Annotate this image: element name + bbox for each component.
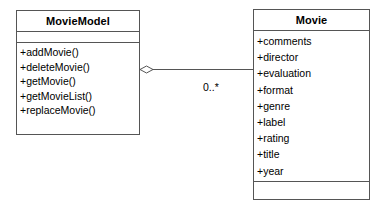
operation-item: +getMovieList() [20,89,139,104]
attributes-compartment-movie: +comments +director +evaluation +format … [254,31,369,182]
attribute-item: +evaluation [257,65,369,81]
attribute-item: +comments [257,33,369,49]
attributes-compartment-movie-model [17,32,139,43]
operation-item: +addMovie() [20,45,139,60]
class-box-movie[interactable]: Movie +comments +director +evaluation +f… [253,9,370,200]
attribute-item: +rating [257,130,369,146]
attribute-item: +label [257,114,369,130]
operation-item: +getMovie() [20,74,139,89]
attribute-item: +genre [257,98,369,114]
attribute-item: +year [257,163,369,179]
association-line [152,69,253,70]
attribute-item: +director [257,49,369,65]
attribute-item: +format [257,82,369,98]
operations-compartment-movie-model: +addMovie() +deleteMovie() +getMovie() +… [17,43,139,120]
class-box-movie-model[interactable]: MovieModel +addMovie() +deleteMovie() +g… [16,10,140,135]
operation-item: +replaceMovie() [20,103,139,118]
hollow-diamond-icon [139,65,154,74]
class-name-movie: Movie [254,10,369,31]
multiplicity-label-target: 0..* [203,81,219,93]
operation-item: +deleteMovie() [20,60,139,75]
attribute-item: +title [257,146,369,162]
uml-class-diagram: MovieModel +addMovie() +deleteMovie() +g… [0,0,384,207]
operations-compartment-movie [254,182,369,199]
class-name-movie-model: MovieModel [17,11,139,32]
